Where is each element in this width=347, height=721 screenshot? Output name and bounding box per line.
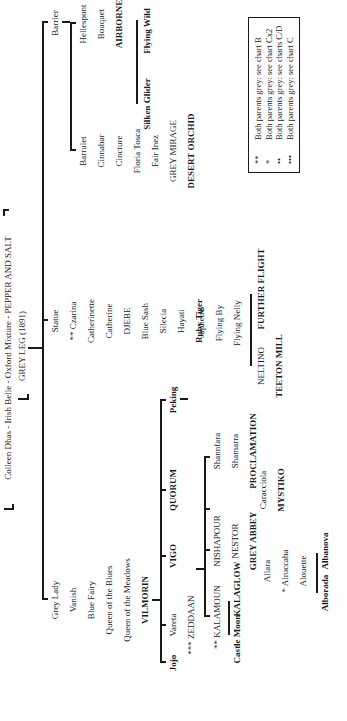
connector [196, 569, 204, 571]
legend-text: Both parents grey: see chart B [253, 37, 264, 140]
legend-symbol: •• [274, 150, 285, 164]
horse-alouette: Alouette [298, 556, 308, 587]
horse-kalamoun: ** KALAMOUN [212, 585, 222, 649]
connector [42, 22, 48, 24]
horse-barrier: Barrier [50, 10, 60, 35]
horse-albanova: Albanova [320, 532, 330, 569]
connector [42, 599, 48, 601]
connector [160, 662, 166, 664]
horse-vilmorin: VILMORIN [140, 576, 150, 624]
horse-further-flight: FURTHER FLIGHT [256, 249, 266, 330]
horse-ruby-tiger: Ruby Tiger [194, 299, 204, 343]
horse-shamarra: Shamarra [230, 434, 240, 468]
connector [27, 394, 29, 400]
horse-peking: Peking [168, 387, 178, 414]
horse: Catherine [104, 304, 114, 339]
horse: Barrulet [78, 136, 88, 166]
horse: GREY MIRAGE [168, 120, 178, 182]
founder-grey-leg: GREY LEG (1891) [17, 311, 27, 381]
connector [160, 625, 166, 627]
horse: Cinnabar [96, 135, 106, 168]
horse-shannfara: Shannfara [212, 433, 222, 469]
connector [180, 399, 188, 401]
connector [70, 150, 76, 152]
horse-flying-wild: Flying Wild [142, 8, 152, 53]
horse-allara: Allara [262, 560, 272, 583]
connector [316, 553, 318, 593]
horse-jojo: Jojo [168, 655, 178, 672]
horse: Blue Sash [140, 303, 150, 339]
connector [42, 320, 48, 322]
legend-symbol: * [264, 150, 275, 164]
horse: Floria Tosca [132, 129, 142, 173]
horse: DJEBE [122, 308, 132, 335]
legend-box: **Both parents grey: see chart B *Both p… [248, 17, 300, 173]
connector [204, 616, 210, 618]
horse-desert-orchid: DESERT ORCHID [186, 114, 196, 189]
legend-symbol: ••• [285, 150, 296, 164]
horse: Catherinette [86, 299, 96, 343]
connector [70, 23, 76, 25]
connector [28, 348, 42, 350]
horse-alborada: Alborada [320, 575, 330, 612]
horse-vigo: VIGO [168, 544, 178, 568]
horse: Silecia [158, 309, 168, 334]
ancestry-line: Colleen Dhas - Irish Belle - Oxford Mixt… [3, 236, 13, 479]
horse-flying-by: Flying By [214, 305, 224, 341]
legend-text: Both parents grey: see charts C/D [274, 26, 285, 140]
connector [62, 22, 70, 24]
connector [204, 550, 210, 552]
connector [160, 490, 166, 492]
horse-castle-moon: Castle Moon [232, 615, 242, 664]
connector [228, 601, 230, 635]
horse-teeton-mill: TEETON MILL [274, 334, 284, 398]
horse-zeddaan: *** ZEDDAAN [186, 595, 196, 654]
horse-neltino: NELTINO [256, 347, 266, 385]
connector [160, 556, 166, 558]
horse-kalaglow: KALAGLOW [232, 561, 242, 616]
legend-text: Both parents grey: see chart Cx2 [264, 29, 275, 140]
connector [152, 600, 160, 602]
connector [12, 504, 14, 510]
main-bar [42, 22, 44, 600]
connector [3, 210, 5, 216]
legend-symbol: ** [253, 150, 264, 164]
horse: ** Czarina [68, 301, 78, 340]
horse: Hayati [176, 309, 186, 333]
horse-mystiko: MYSTIKO [276, 468, 286, 512]
connector [136, 20, 138, 104]
horse: Blue Fairy [86, 581, 96, 619]
connector [70, 23, 72, 151]
horse-proclamation: PROCLAMATION [248, 413, 258, 488]
horse-airborne: AIRBORNE [114, 0, 124, 48]
horse: Fair Inez [150, 135, 160, 167]
horse-grey-abbey: GREY ABBEY [248, 512, 258, 570]
horse-statue: Statue [50, 310, 60, 333]
horse-vareta: Vareta [168, 614, 178, 637]
horse-flying-nelly: Flying Nelly [232, 300, 242, 346]
horse: Queen of the Blues [104, 565, 114, 634]
connector [250, 294, 252, 366]
horse: Vanish [68, 588, 78, 613]
horse-nishapour: NISHAPOUR [212, 515, 222, 567]
connector [204, 457, 210, 459]
legend-text: Both parents grey: see chart C [285, 37, 296, 140]
connector [4, 509, 12, 511]
horse-alruccaba: * Alruccaba [280, 549, 290, 592]
connector [204, 457, 206, 617]
horse: Cincture [114, 136, 124, 167]
horse-caracciola: Caracciola [258, 471, 268, 509]
horse: Hellespont [78, 5, 88, 44]
connector [160, 400, 166, 402]
horse: Bouquet [96, 9, 106, 40]
horse-nestor: NESTOR [230, 524, 240, 559]
horse-silken-glider: Silken Glider [142, 78, 152, 129]
connector [204, 509, 210, 511]
horse: Queen of the Meadows [122, 558, 132, 642]
pedigree-chart: Colleen Dhas - Irish Belle - Oxford Mixt… [0, 0, 347, 721]
connector [18, 399, 27, 401]
horse-quorum: QUORUM [168, 469, 178, 511]
horse-grey-lady: Grey Lady [50, 581, 60, 620]
